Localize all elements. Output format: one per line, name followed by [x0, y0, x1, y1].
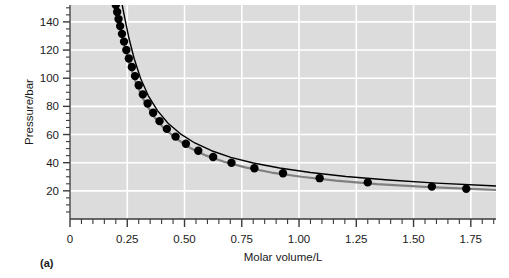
data-point [149, 109, 157, 117]
x-tick-label: 1.00 [288, 233, 310, 245]
y-tick-label: 20 [46, 185, 59, 197]
data-point [131, 72, 139, 80]
x-tick-label: 1.50 [402, 233, 424, 245]
data-point [114, 15, 122, 23]
y-tick-label: 80 [46, 100, 59, 112]
data-point [120, 37, 128, 45]
data-point [194, 147, 202, 155]
data-point [182, 139, 190, 147]
y-tick-label: 120 [40, 44, 59, 56]
data-point [125, 54, 133, 62]
data-point [163, 125, 171, 133]
y-axis-title: Pressure/bar [23, 79, 35, 145]
data-point [155, 117, 163, 125]
y-tick-label: 100 [40, 72, 59, 84]
chart-svg: 2040608010012014000.250.500.751.001.251.… [0, 0, 509, 278]
x-tick-label: 0.50 [173, 233, 195, 245]
y-tick-label: 60 [46, 129, 59, 141]
data-point [116, 22, 124, 30]
data-point [364, 178, 372, 186]
figure-panel: 2040608010012014000.250.500.751.001.251.… [0, 0, 509, 278]
data-point [128, 63, 136, 71]
data-point [209, 153, 217, 161]
y-tick-label: 40 [46, 157, 59, 169]
data-point [113, 8, 121, 16]
data-point [143, 99, 151, 107]
data-point [279, 169, 287, 177]
panel-label: (a) [40, 257, 53, 269]
x-tick-label: 0.75 [231, 233, 253, 245]
data-point [315, 174, 323, 182]
data-point [112, 1, 120, 9]
y-tick-label: 140 [40, 16, 59, 28]
x-tick-label: 1.25 [345, 233, 367, 245]
x-tick-label: 0.25 [116, 233, 138, 245]
data-point [462, 185, 470, 193]
x-tick-label: 1.75 [460, 233, 482, 245]
data-point [135, 81, 143, 89]
data-point [171, 132, 179, 140]
x-tick-label: 0 [67, 233, 73, 245]
data-point [122, 46, 130, 54]
data-point [139, 90, 147, 98]
data-point [250, 164, 258, 172]
data-point [118, 30, 126, 38]
x-axis-title: Molar volume/L [244, 251, 323, 263]
data-point [428, 182, 436, 190]
data-point [227, 158, 235, 166]
